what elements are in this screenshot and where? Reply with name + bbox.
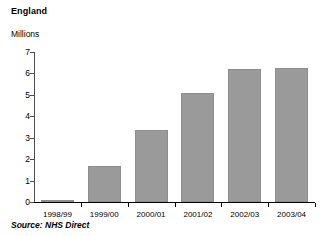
x-axis-tick (81, 203, 82, 207)
y-axis-line (34, 52, 35, 203)
y-axis-tick (30, 202, 34, 203)
y-axis-tick-label: 6 (12, 69, 30, 78)
x-axis-tick (268, 203, 269, 207)
bar (275, 68, 308, 202)
y-axis-tick (30, 95, 34, 96)
x-axis-tick-label: 2002/03 (221, 210, 268, 219)
y-axis-tick (30, 73, 34, 74)
x-axis-tick (221, 203, 222, 207)
x-axis-tick-label: 1998/99 (34, 210, 81, 219)
x-axis-tick (128, 203, 129, 207)
bar (135, 130, 168, 202)
y-axis-tick (30, 181, 34, 182)
y-axis-tick-label: 1 (12, 177, 30, 186)
y-axis-unit-label: Millions (11, 29, 39, 39)
y-axis-tick-label: 4 (12, 112, 30, 121)
y-axis-tick-labels: 01234567 (8, 52, 30, 203)
y-axis-tick (30, 138, 34, 139)
y-axis-tick-label: 7 (12, 48, 30, 57)
x-axis-tick-label: 2003/04 (268, 210, 315, 219)
y-axis-tick-label: 3 (12, 134, 30, 143)
y-axis-tick-label: 0 (12, 198, 30, 207)
x-axis-tick-label: 1999/00 (81, 210, 128, 219)
y-axis-tick (30, 52, 34, 53)
x-axis-tick-label: 2000/01 (128, 210, 175, 219)
y-axis-tick-label: 5 (12, 91, 30, 100)
source-note: Source: NHS Direct (11, 220, 89, 230)
page-title: England (11, 6, 47, 16)
plot-area: 01234567 1998/991999/002000/012001/02200… (34, 52, 315, 203)
bar (228, 69, 261, 202)
x-axis-tick (315, 203, 316, 207)
bar (88, 166, 121, 202)
chart-figure: England Millions 01234567 1998/991999/00… (0, 0, 325, 236)
y-axis-tick-label: 2 (12, 155, 30, 164)
x-axis-tick-label: 2001/02 (175, 210, 222, 219)
bar (181, 93, 214, 202)
y-axis-tick (30, 159, 34, 160)
y-axis-tick (30, 116, 34, 117)
x-axis-tick (175, 203, 176, 207)
bar (41, 200, 74, 202)
